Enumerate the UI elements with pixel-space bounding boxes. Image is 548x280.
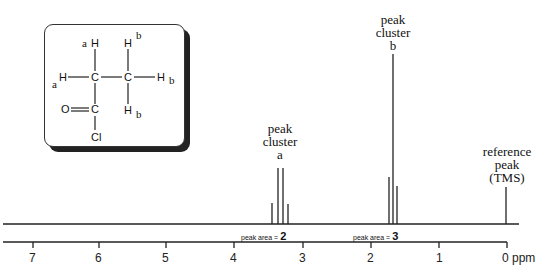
tick-0-ppm: 0 ppm (502, 251, 535, 265)
cluster-a-label: peak cluster a (255, 122, 305, 161)
peak-area-b: peak area = 3 (353, 230, 398, 242)
tick-6: 6 (95, 251, 102, 265)
tick-7: 7 (29, 251, 36, 265)
tick-5: 5 (162, 251, 169, 265)
cluster-b-label: peak cluster b (368, 13, 418, 52)
tick-2: 2 (367, 251, 374, 265)
tick-3: 3 (299, 251, 306, 265)
reference-peak-label: reference peak (TMS) (476, 145, 538, 184)
tick-4: 4 (230, 251, 237, 265)
tick-1: 1 (436, 251, 443, 265)
peak-area-a: peak area = 2 (241, 230, 286, 242)
